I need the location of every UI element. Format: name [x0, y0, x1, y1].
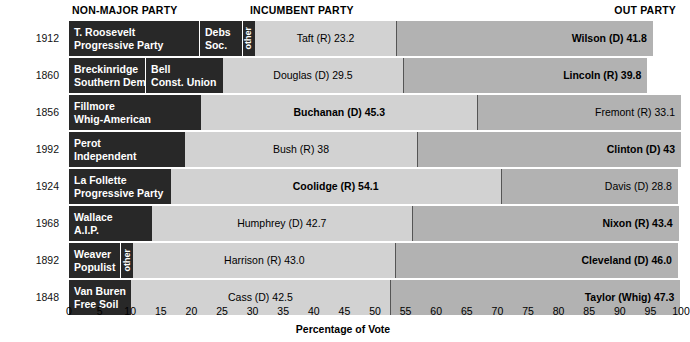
- axis-tick-label: 30: [247, 305, 259, 317]
- axis-tick-label: 90: [614, 305, 626, 317]
- segment-label: La Follette: [74, 174, 127, 187]
- segment-label: Soc.: [205, 39, 227, 52]
- column-headers: NON-MAJOR PARTY INCUMBENT PARTY OUT PART…: [0, 0, 686, 20]
- axis-tick-label: 75: [522, 305, 534, 317]
- segment-label: Lincoln (R) 39.8: [563, 69, 641, 82]
- chart-row: 1892WeaverPopulistotherHarrison (R) 43.0…: [0, 243, 686, 278]
- stacked-bar: T. RooseveltProgressive PartyDebsSoc.oth…: [69, 21, 681, 56]
- axis-tick-label: 10: [124, 305, 136, 317]
- segment-label: Coolidge (R) 54.1: [293, 180, 379, 193]
- segment-label: Progressive Party: [74, 187, 163, 200]
- segment-label: Nixon (R) 43.4: [603, 217, 673, 230]
- segment-label: Humphrey (D) 42.7: [237, 217, 326, 230]
- bar-segment-non-major: BellConst. Union: [146, 58, 223, 93]
- segment-label: Wallace: [74, 211, 113, 224]
- row-year-label: 1912: [0, 21, 64, 56]
- chart-row: 1912T. RooseveltProgressive PartyDebsSoc…: [0, 21, 686, 56]
- axis-tick-label: 70: [492, 305, 504, 317]
- segment-label: Harrison (R) 43.0: [224, 254, 305, 267]
- segment-label: Van Buren: [74, 285, 126, 298]
- bar-segment-non-major: DebsSoc.: [200, 21, 243, 56]
- segment-label: Breckinridge: [74, 63, 138, 76]
- segment-label: Cleveland (D) 46.0: [581, 254, 671, 267]
- bar-segment-non-major: FillmoreWhig-American: [69, 95, 201, 130]
- segment-label: Progressive Party: [74, 39, 163, 52]
- segment-label: Clinton (D) 43: [607, 143, 675, 156]
- stacked-bar: WeaverPopulistotherHarrison (R) 43.0Clev…: [69, 243, 681, 278]
- segment-label: Debs: [205, 26, 231, 39]
- bar-segment-non-major: WeaverPopulist: [69, 243, 121, 278]
- bar-segment-incumbent: Douglas (D) 29.5: [223, 58, 404, 93]
- axis-tick-label: 80: [553, 305, 565, 317]
- segment-label: Populist: [74, 261, 115, 274]
- segment-label: Wilson (D) 41.8: [572, 32, 647, 45]
- segment-label: other: [123, 249, 132, 272]
- segment-label: Douglas (D) 29.5: [273, 69, 352, 82]
- axis-tick-label: 100: [672, 305, 690, 317]
- bar-segment-incumbent: Buchanan (D) 45.3: [201, 95, 478, 130]
- bar-segment-out-party: Wilson (D) 41.8: [397, 21, 653, 56]
- axis-tick-label: 0: [66, 305, 72, 317]
- bar-segment-incumbent: Humphrey (D) 42.7: [152, 206, 413, 241]
- axis-tick-label: 15: [155, 305, 167, 317]
- bar-segment-incumbent: Taft (R) 23.2: [255, 21, 397, 56]
- chart-row: 1856FillmoreWhig-AmericanBuchanan (D) 45…: [0, 95, 686, 130]
- column-header-incumbent-party: INCUMBENT PARTY: [250, 4, 354, 16]
- segment-label: Davis (D) 28.8: [605, 180, 672, 193]
- axis-tick-label: 60: [430, 305, 442, 317]
- bar-segment-out-party: Lincoln (R) 39.8: [404, 58, 648, 93]
- segment-label: Perot: [74, 137, 101, 150]
- bar-segment-non-major: La FolletteProgressive Party: [69, 169, 171, 204]
- bar-segment-non-major: T. RooseveltProgressive Party: [69, 21, 200, 56]
- row-year-label: 1856: [0, 95, 64, 130]
- axis-tick-label: 85: [583, 305, 595, 317]
- segment-label: T. Roosevelt: [74, 26, 135, 39]
- axis-tick-label: 20: [186, 305, 198, 317]
- axis-tick-label: 5: [97, 305, 103, 317]
- segment-label: other: [244, 27, 253, 50]
- axis-tick-label: 95: [645, 305, 657, 317]
- segment-label: Const. Union: [151, 76, 216, 89]
- axis-tick-label: 45: [339, 305, 351, 317]
- row-year-label: 1924: [0, 169, 64, 204]
- bar-segment-out-party: Clinton (D) 43: [418, 132, 681, 167]
- segment-label: Weaver: [74, 248, 111, 261]
- bar-segment-out-party: Nixon (R) 43.4: [413, 206, 679, 241]
- chart-rows: 1912T. RooseveltProgressive PartyDebsSoc…: [0, 21, 686, 317]
- bar-segment-non-major: WallaceA.I.P.: [69, 206, 152, 241]
- bar-segment-incumbent: Harrison (R) 43.0: [133, 243, 396, 278]
- bar-segment-incumbent: Coolidge (R) 54.1: [171, 169, 502, 204]
- x-axis: 0510152025303540455055606570758085909510…: [69, 303, 681, 321]
- chart-row: 1924La FolletteProgressive PartyCoolidge…: [0, 169, 686, 204]
- axis-tick-label: 25: [216, 305, 228, 317]
- segment-label: Bush (R) 38: [273, 143, 329, 156]
- column-header-non-major-party: NON-MAJOR PARTY: [72, 4, 177, 16]
- axis-tick-label: 50: [369, 305, 381, 317]
- x-axis-title: Percentage of Vote: [0, 323, 686, 335]
- segment-label: Buchanan (D) 45.3: [294, 106, 386, 119]
- segment-label: Bell: [151, 63, 170, 76]
- bar-segment-incumbent: Bush (R) 38: [185, 132, 418, 167]
- chart-row: 1968WallaceA.I.P.Humphrey (D) 42.7Nixon …: [0, 206, 686, 241]
- stacked-bar: WallaceA.I.P.Humphrey (D) 42.7Nixon (R) …: [69, 206, 681, 241]
- column-header-out-party: OUT PARTY: [614, 4, 676, 16]
- bar-segment-out-party: Cleveland (D) 46.0: [396, 243, 678, 278]
- segment-label: Independent: [74, 150, 136, 163]
- stacked-bar: La FolletteProgressive PartyCoolidge (R)…: [69, 169, 681, 204]
- row-year-label: 1892: [0, 243, 64, 278]
- chart-row: 1860BreckinridgeSouthern DemocratBellCon…: [0, 58, 686, 93]
- stacked-bar: FillmoreWhig-AmericanBuchanan (D) 45.3Fr…: [69, 95, 681, 130]
- bar-segment-out-party: Davis (D) 28.8: [502, 169, 678, 204]
- axis-tick-label: 40: [308, 305, 320, 317]
- row-year-label: 1860: [0, 58, 64, 93]
- row-year-label: 1848: [0, 280, 64, 315]
- segment-label: Whig-American: [74, 113, 151, 126]
- chart-row: 1992PerotIndependentBush (R) 38Clinton (…: [0, 132, 686, 167]
- axis-tick-label: 35: [277, 305, 289, 317]
- segment-label: Southern Democrat: [74, 76, 146, 89]
- bar-segment-non-major: BreckinridgeSouthern Democrat: [69, 58, 146, 93]
- bar-segment-non-major: other: [121, 243, 133, 278]
- segment-label: Taft (R) 23.2: [297, 32, 355, 45]
- row-year-label: 1992: [0, 132, 64, 167]
- segment-label: A.I.P.: [74, 224, 99, 237]
